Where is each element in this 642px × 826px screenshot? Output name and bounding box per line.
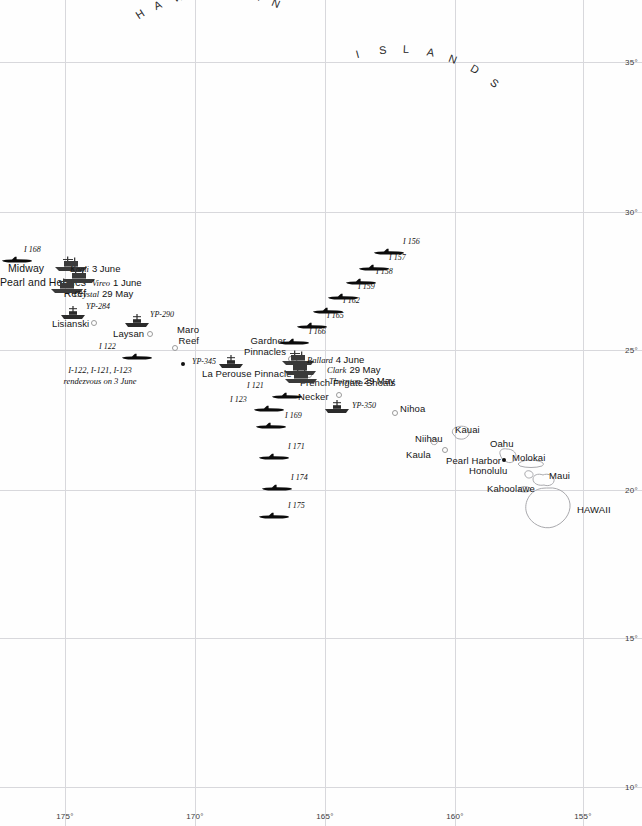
- surface-ship-icon-thornton: [284, 368, 318, 388]
- island-marker-dot: [91, 320, 97, 326]
- arc-islands-char: N: [448, 52, 460, 66]
- surface-ship-label-thornton: Thornton29 May: [329, 370, 395, 388]
- island-label-kaula: Kaula: [406, 449, 431, 460]
- arc-islands-char: D: [469, 62, 482, 76]
- submarine-label-i-162: I 162: [343, 296, 360, 305]
- arc-islands-char: S: [488, 76, 501, 90]
- island-label-la-perouse-pinnacle: La Perouse Pinnacle: [202, 368, 292, 379]
- submarine-label-i-169: I 169: [285, 411, 302, 420]
- submarine-label-i-174: I 174: [291, 473, 308, 482]
- patrol-craft-icon-yp-284: [60, 306, 86, 324]
- longitude-label-175deg: 175°: [56, 812, 74, 821]
- patrol-craft-label-yp-284: YP-284: [86, 302, 110, 311]
- island-label-kahoolawe: Kahoolawe: [487, 483, 535, 494]
- arc-islands-char: L: [403, 43, 410, 55]
- arc-hawaiian-char: N: [270, 0, 282, 10]
- patrol-craft-icon-yp-290: [124, 314, 150, 332]
- island-marker-dot: [172, 345, 178, 351]
- island-label-kauai: Kauai: [455, 424, 480, 435]
- latitude-label-10deg: 10°: [625, 783, 638, 792]
- grid-meridian-1: [65, 0, 66, 826]
- submarine-icon-i-122: [122, 347, 152, 365]
- submarine-label-i-158: I 158: [376, 267, 393, 276]
- city-label-honolulu: Honolulu: [469, 465, 507, 476]
- grid-parallel-1: [0, 62, 642, 63]
- ship-date: 29 May: [102, 288, 133, 299]
- latitude-label-35deg: 35°: [625, 58, 638, 67]
- patrol-craft-label-yp-350: YP-350: [352, 401, 376, 410]
- submarine-label-i-159: I 159: [358, 282, 375, 291]
- latitude-label-15deg: 15°: [625, 634, 638, 643]
- submarine-label-i-171: I 171: [288, 442, 305, 451]
- ship-name: Thornton: [329, 376, 361, 386]
- ship-date: 29 May: [364, 375, 395, 386]
- rendezvous-marker-dot: [181, 362, 185, 366]
- submarine-icon-i-166: [279, 332, 309, 350]
- island-label-nihoa: Nihoa: [400, 403, 425, 414]
- arc-islands-char: I: [354, 48, 360, 60]
- patrol-craft-label-yp-345: YP-345: [192, 357, 216, 366]
- arc-hawaiian-char: W: [171, 0, 184, 5]
- grid-meridian-5: [583, 0, 584, 826]
- surface-ship-label-crystal: Crystal29 May: [74, 283, 133, 301]
- grid-meridian-2: [195, 0, 196, 826]
- city-marker-dot: [502, 458, 506, 462]
- ship-name: Crystal: [74, 289, 99, 299]
- island-label-oahu: Oahu: [490, 438, 514, 449]
- island-label-maro-reef: Maro Reef: [177, 324, 199, 346]
- rendezvous-annotation: I-122, I-121, I-123rendezvous on 3 June: [63, 365, 136, 387]
- island-label-maui: Maui: [549, 470, 570, 481]
- submarine-icon-i-123: [254, 399, 284, 417]
- annotation-line-1: I-122, I-121, I-123: [63, 365, 136, 376]
- patrol-craft-icon-yp-345: [218, 355, 244, 373]
- island-label-molokai: Molokai: [512, 452, 545, 463]
- latitude-label-20deg: 20°: [625, 486, 638, 495]
- grid-meridian-4: [455, 0, 456, 826]
- island-label-niihau: Niihau: [415, 433, 443, 444]
- island-label-hawaii: HAWAII: [577, 504, 611, 515]
- latitude-label-25deg: 25°: [625, 346, 638, 355]
- longitude-label-165deg: 165°: [316, 812, 334, 821]
- arc-islands-char: S: [379, 43, 388, 56]
- island-marker-dot: [442, 447, 448, 453]
- submarine-label-i-156: I 156: [403, 237, 420, 246]
- grid-parallel-2: [0, 212, 642, 213]
- submarine-label-i-168: I 168: [24, 245, 41, 254]
- annotation-line-2: rendezvous on 3 June: [63, 376, 136, 387]
- island-marker-dot: [392, 410, 398, 416]
- submarine-label-i-121: I 121: [247, 381, 264, 390]
- patrol-craft-label-yp-290: YP-290: [150, 310, 174, 319]
- submarine-icon-i-175: [259, 506, 289, 524]
- arc-hawaiian-char: H: [133, 7, 146, 21]
- latitude-label-30deg: 30°: [625, 208, 638, 217]
- submarine-label-i-165: I 165: [327, 311, 344, 320]
- arc-hawaiian-char: A: [251, 0, 261, 3]
- grid-parallel-5: [0, 638, 642, 639]
- hawaiian-islands-map: 35°30°25°20°15°10°175°170°165°160°155° H…: [0, 0, 642, 826]
- submarine-label-i-123: I 123: [230, 395, 247, 404]
- longitude-label-155deg: 155°: [574, 812, 592, 821]
- island-marker-dot: [336, 392, 342, 398]
- submarine-icon-i-174: [262, 478, 292, 496]
- arc-hawaiian-char: A: [152, 0, 164, 12]
- longitude-label-160deg: 160°: [446, 812, 464, 821]
- submarine-label-i-166: I 166: [309, 327, 326, 336]
- submarine-icon-i-169: [256, 416, 286, 434]
- patrol-craft-icon-yp-350: [324, 400, 350, 418]
- longitude-label-170deg: 170°: [186, 812, 204, 821]
- submarine-label-i-157: I 157: [389, 253, 406, 262]
- submarine-label-i-122: I 122: [99, 342, 116, 351]
- submarine-icon-i-171: [259, 447, 289, 465]
- arc-islands-char: A: [425, 46, 435, 59]
- grid-parallel-6: [0, 787, 642, 788]
- submarine-label-i-175: I 175: [288, 501, 305, 510]
